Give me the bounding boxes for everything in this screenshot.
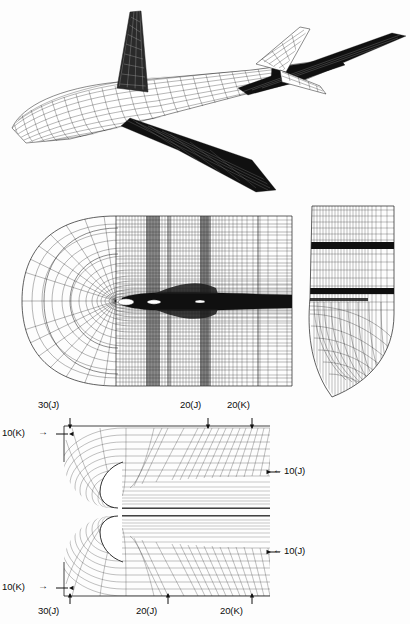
label-top-right-20K: 20(K) (227, 400, 250, 410)
label-bottom-left-30J: 30(J) (38, 606, 59, 616)
label-right-upper-10J: 10(J) (284, 466, 305, 476)
vertical-stabilizer-surface (117, 11, 148, 92)
cfd-grid-figure: 30(J) 20(J) 20(K) 10(K) 10(K) 10(J) 10(J… (0, 0, 410, 624)
arrow-right-icon-left-lower: → (38, 581, 48, 591)
wing-left-surface (121, 118, 276, 192)
panel-volume-grid-planview (4, 202, 294, 400)
closeup-upper-grid (59, 428, 274, 514)
label-top-mid-20J: 20(J) (180, 400, 201, 410)
arrow-left-icon-right-lower: ← (273, 545, 283, 555)
label-top-left-30J: 30(J) (38, 400, 59, 410)
label-left-upper-10K: 10(K) (2, 428, 25, 438)
planview-gridlines (22, 216, 294, 386)
aircraft-mesh-svg (0, 0, 410, 200)
closeup-grid-svg (22, 400, 322, 624)
panel-leading-edge-closeup: 30(J) 20(J) 20(K) 10(K) 10(K) 10(J) 10(J… (22, 400, 322, 624)
panel-volume-grid-crosssection (298, 202, 408, 402)
label-right-lower-10J: 10(J) (284, 546, 305, 556)
arrow-left-icon-right-upper: ← (273, 465, 283, 475)
arrow-right-icon-left-upper: → (38, 427, 48, 437)
crosssection-gridlines (298, 202, 408, 402)
closeup-lower-grid (59, 510, 274, 596)
label-left-lower-10K: 10(K) (2, 582, 25, 592)
crosssection-grid-svg (298, 202, 408, 402)
crosssection-outer-boundary (309, 206, 394, 397)
label-bottom-right-20K: 20(K) (220, 606, 243, 616)
planview-grid-svg (4, 202, 294, 400)
label-bottom-mid-20J: 20(J) (136, 606, 157, 616)
panel-aircraft-surface-mesh (0, 0, 410, 200)
